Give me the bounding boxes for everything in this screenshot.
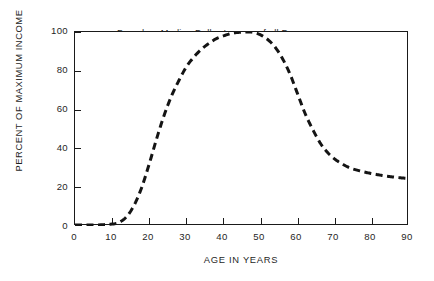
x-tick-label-60: 60 [281, 231, 311, 242]
income-curve-line [75, 32, 409, 225]
plot-area [74, 31, 408, 225]
y-axis-title: PERCENT OF MAXIMUM INCOME [13, 0, 24, 186]
y-tick-label-40: 40 [38, 142, 68, 153]
x-tick-label-20: 20 [133, 231, 163, 242]
income-curve [75, 32, 409, 226]
x-tick-label-10: 10 [96, 231, 126, 242]
chart-figure: Based on Median Dollar Income of all Per… [0, 0, 434, 281]
y-tick-label-20: 20 [38, 181, 68, 192]
x-tick-label-90: 90 [392, 231, 422, 242]
y-tick-label-0: 0 [38, 220, 68, 231]
y-tick-label-100: 100 [38, 25, 68, 36]
x-tick-label-40: 40 [207, 231, 237, 242]
y-tick-label-80: 80 [38, 64, 68, 75]
x-tick-label-0: 0 [59, 231, 89, 242]
x-tick-label-80: 80 [355, 231, 385, 242]
x-tick-label-70: 70 [318, 231, 348, 242]
x-tick-label-30: 30 [170, 231, 200, 242]
y-tick-label-60: 60 [38, 103, 68, 114]
x-tick-label-50: 50 [244, 231, 274, 242]
x-axis-title: AGE IN YEARS [74, 254, 408, 265]
